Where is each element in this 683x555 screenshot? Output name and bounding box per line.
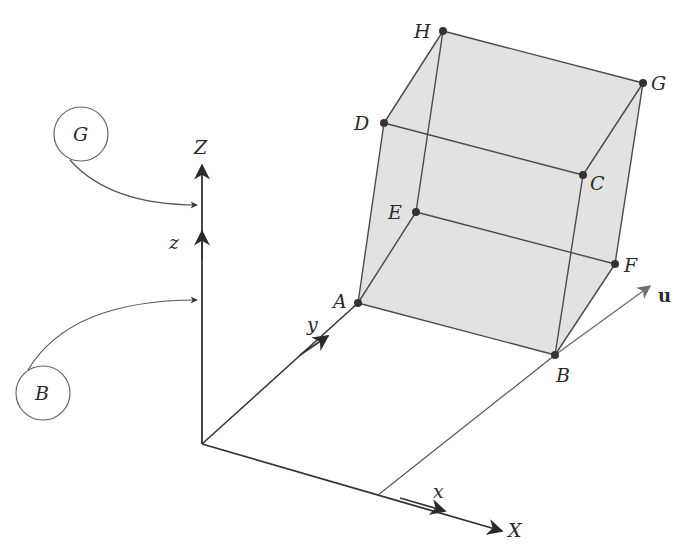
label-G: G	[651, 72, 666, 94]
label-C: C	[590, 172, 605, 194]
callout-label-G: G	[73, 123, 88, 145]
callout-curve-B	[28, 300, 197, 370]
label-E: E	[387, 201, 402, 223]
vertex-C	[579, 171, 587, 179]
callout-curve-G	[70, 160, 197, 205]
y-axis-line	[202, 303, 358, 444]
vertex-H	[439, 27, 447, 35]
vertex-A	[354, 299, 362, 307]
label-F: F	[623, 254, 638, 276]
diagram-canvas: A B C D E F G H Z z y x X u G B	[0, 0, 683, 555]
vertex-B	[551, 351, 559, 359]
label-y: y	[306, 313, 318, 335]
vertex-G	[639, 79, 647, 87]
vertex-F	[611, 260, 619, 268]
label-D: D	[353, 112, 369, 134]
label-u: u	[658, 285, 671, 306]
label-B: B	[555, 364, 570, 386]
projection-line	[378, 355, 555, 495]
vertex-D	[380, 119, 388, 127]
label-H: H	[413, 20, 431, 42]
callout-label-B: B	[34, 382, 49, 404]
vertex-E	[412, 208, 420, 216]
label-z: z	[168, 231, 180, 253]
label-X: X	[506, 519, 523, 541]
label-x: x	[433, 480, 444, 502]
label-A: A	[331, 290, 347, 312]
x-axis-line	[202, 444, 502, 531]
label-Z: Z	[193, 136, 208, 158]
